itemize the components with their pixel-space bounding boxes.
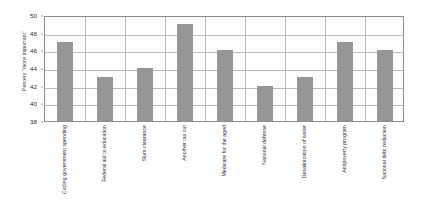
y-axis-tick-label: 50 <box>20 13 41 19</box>
x-axis-label-slot: Antipoverty program <box>324 122 364 218</box>
y-axis-tick-mark <box>41 122 43 123</box>
bars-layer <box>45 17 403 121</box>
y-axis-tick-mark <box>41 33 43 34</box>
y-axis-tick-label: 40 <box>20 101 41 107</box>
x-axis-label-slot: Desalinization of water <box>284 122 324 218</box>
x-axis-label-slot: National defense <box>244 122 284 218</box>
bar-chart: Percent "more important" 38404244464850 … <box>0 0 422 218</box>
y-axis-tick-mark <box>41 86 43 87</box>
bar <box>177 24 194 121</box>
bar <box>257 86 274 121</box>
x-axis-tick-label: Cutting government spending <box>61 125 67 194</box>
x-axis-tick-label: Slum clearance <box>141 125 147 161</box>
bar <box>337 42 354 122</box>
bar <box>97 77 114 121</box>
x-axis-tick-label: Antipoverty program <box>341 125 347 173</box>
y-axis-tick-mark <box>41 69 43 70</box>
y-axis-tick-group: 38404244464850 <box>24 0 41 218</box>
bar <box>377 50 394 121</box>
y-axis-tick-label: 42 <box>20 84 41 90</box>
x-axis-label-slot: Slum clearance <box>124 122 164 218</box>
x-axis-tick-label: National debt reduction <box>381 125 387 180</box>
y-axis-tick-mark <box>41 51 43 52</box>
y-axis-tick-label: 48 <box>20 31 41 37</box>
x-axis-label-slot: Medicare for the aged <box>204 122 244 218</box>
y-axis-tick-mark <box>41 104 43 105</box>
x-axis-tick-label: Federal aid to education <box>101 125 107 182</box>
x-axis-tick-label: National defense <box>261 125 267 165</box>
plot-area <box>44 16 404 122</box>
y-axis-tick-mark <box>41 16 43 17</box>
x-axis-tick-label: Desalinization of water <box>301 125 307 178</box>
bar <box>217 50 234 121</box>
y-axis-tick-label: 44 <box>20 66 41 72</box>
bar <box>297 77 314 121</box>
bar <box>137 68 154 121</box>
x-axis-tick-label: Another tax cut <box>181 125 187 161</box>
x-axis-label-slot: Federal aid to education <box>84 122 124 218</box>
x-axis-label-group: Cutting government spendingFederal aid t… <box>44 122 404 218</box>
x-axis-label-slot: National debt reduction <box>364 122 404 218</box>
x-axis-tick-label: Medicare for the aged <box>221 125 227 177</box>
x-axis-label-slot: Cutting government spending <box>44 122 84 218</box>
bar <box>57 42 74 122</box>
y-axis-tick-label: 38 <box>20 119 41 125</box>
y-axis-tick-label: 46 <box>20 48 41 54</box>
x-axis-label-slot: Another tax cut <box>164 122 204 218</box>
